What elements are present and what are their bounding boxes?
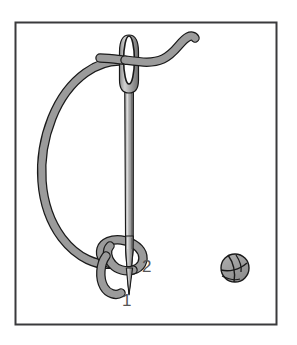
finished-knot-icon (221, 254, 249, 282)
label-point-1: 1 (122, 292, 131, 309)
stitch-illustration-svg (0, 0, 297, 345)
label-point-2: 2 (142, 258, 151, 275)
french-knot-diagram: 1 2 (0, 0, 297, 345)
